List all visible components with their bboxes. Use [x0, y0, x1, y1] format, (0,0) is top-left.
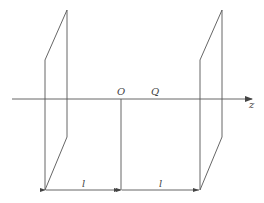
origin-label: O: [117, 86, 125, 97]
dimension-right-label: l: [159, 178, 162, 189]
dimension-left-label: l: [82, 178, 85, 189]
diagram-canvas: O Q z l l: [0, 0, 264, 203]
left-plate: [45, 10, 67, 190]
point-q-label: Q: [151, 86, 159, 97]
z-axis-label: z: [248, 99, 255, 110]
right-plate: [200, 10, 222, 190]
